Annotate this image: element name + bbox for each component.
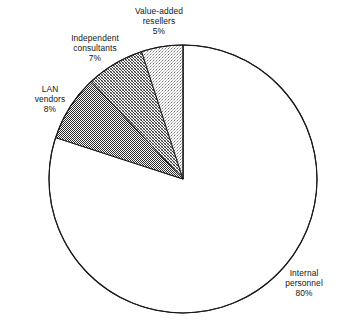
pie-label-line1: Independent: [71, 33, 119, 43]
pie-label-value: 7%: [48, 53, 142, 63]
pie-label-independent-consultants: Independent consultants 7%: [48, 33, 142, 64]
pie-label-line1: LAN: [42, 84, 59, 94]
pie-label-line1: Internal: [290, 268, 319, 278]
pie-label-value: 8%: [14, 104, 86, 114]
pie-label-value: 80%: [268, 288, 340, 298]
pie-label-line2: resellers: [143, 16, 176, 26]
pie-label-line2: consultants: [73, 43, 116, 53]
pie-label-line1: Value-added: [135, 6, 183, 16]
pie-label-internal-personnel: Internal personnel 80%: [268, 268, 340, 299]
pie-chart: Value-added resellers 5% Independent con…: [0, 0, 349, 328]
pie-label-line2: vendors: [35, 94, 66, 104]
pie-label-line2: personnel: [285, 278, 323, 288]
pie-label-lan-vendors: LAN vendors 8%: [14, 84, 86, 115]
